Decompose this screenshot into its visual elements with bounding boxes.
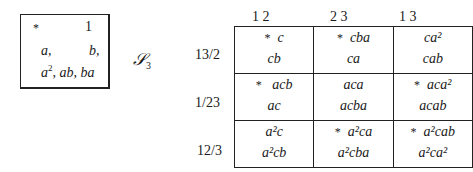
table-cell: * a²cab a²ca² [393,121,472,168]
semigroup-label: 𝒮3 [133,50,151,71]
star-marker: * [33,21,39,36]
table-row: * c cb * cba ca ca² cab [235,27,473,74]
star-marker: * [256,78,262,92]
table-cell: a²c a²cb [235,121,314,168]
table-cell: ca² cab [393,27,472,74]
table-row: a²c a²cb * a²ca a²cba * a²cab a²ca² [235,121,473,168]
element-list: a2, ab, ba [41,65,95,81]
table-cell: aca acba [314,74,393,121]
star-marker: * [265,31,271,45]
row-label-3: 12/3 [197,143,222,159]
row-label-2: 1/23 [195,95,220,111]
table-cell: * acb ac [235,74,314,121]
table-cell: * a²ca a²cba [314,121,393,168]
element-a: a, [41,43,52,59]
element-b: b, [89,43,100,59]
table-cell: * c cb [235,27,314,74]
column-header-1: 1 2 [252,9,270,25]
column-header-2: 2 3 [330,9,348,25]
element-box: * 1 a, b, a2, ab, ba [20,14,110,89]
multiplication-table: * c cb * cba ca ca² cab * acb ac aca acb… [234,26,473,168]
star-marker: * [411,125,417,139]
column-header-3: 1 3 [399,9,417,25]
star-marker: * [335,125,341,139]
star-marker: * [414,78,420,92]
star-marker: * [337,31,343,45]
identity-element: 1 [85,19,92,35]
row-label-1: 13/2 [195,47,220,63]
table-cell: * aca² acab [393,74,472,121]
table-cell: * cba ca [314,27,393,74]
table-row: * acb ac aca acba * aca² acab [235,74,473,121]
